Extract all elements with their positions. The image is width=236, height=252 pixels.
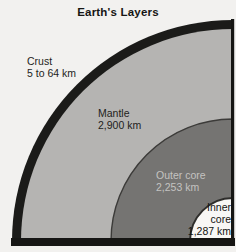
mantle-name: Mantle: [98, 107, 141, 119]
right-frame-line: [231, 19, 234, 246]
inner-core-name-line2: core: [188, 213, 231, 225]
crust-name: Crust: [27, 55, 76, 67]
mantle-label: Mantle 2,900 km: [98, 107, 141, 131]
outer-core-name: Outer core: [156, 169, 206, 181]
crust-thickness: 5 to 64 km: [27, 67, 76, 79]
earth-layers-figure: Earth's Layers Crust 5 to 64 km Mantle 2…: [0, 0, 236, 252]
outer-core-thickness: 2,253 km: [156, 181, 206, 193]
outer-core-label: Outer core 2,253 km: [156, 169, 206, 193]
crust-label: Crust 5 to 64 km: [27, 55, 76, 79]
inner-core-thickness: 1,287 km: [188, 225, 231, 237]
figure-title: Earth's Layers: [0, 6, 236, 18]
mantle-thickness: 2,900 km: [98, 119, 141, 131]
inner-core-name-line1: Inner: [188, 201, 231, 213]
bottom-frame-bar: [11, 238, 235, 246]
inner-core-label: Inner core 1,287 km: [188, 201, 231, 237]
